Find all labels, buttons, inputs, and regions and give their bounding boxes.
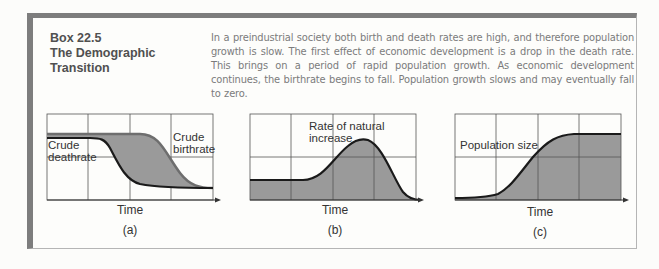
- chart-b-xlabel: Time: [300, 203, 370, 217]
- box-title-line2: Transition: [50, 61, 156, 76]
- chart-a-xlabel: Time: [95, 203, 165, 217]
- label-crude-deathrate-1: Crude: [48, 139, 79, 151]
- label-crude-birthrate-1: Crude: [173, 131, 204, 143]
- chart-c-xlabel: Time: [505, 205, 575, 219]
- label-rate-natural-increase-1: Rate of natural: [309, 120, 384, 132]
- chart-c-population-size: Population size: [448, 108, 633, 208]
- chart-b-natural-increase: Rate of natural increase: [243, 108, 428, 208]
- box-title-line1: The Demographic: [50, 46, 156, 61]
- box-title: Box 22.5 The Demographic Transition: [50, 31, 156, 76]
- chart-b-panel-label: (b): [300, 223, 370, 237]
- chart-a-birth-death-rates: Crude deathrate Crude birthrate: [40, 108, 225, 208]
- label-crude-deathrate-2: deathrate: [48, 151, 97, 163]
- label-crude-birthrate-2: birthrate: [173, 143, 215, 155]
- box-description: In a preindustrial society both birth an…: [211, 31, 634, 101]
- box-number: Box 22.5: [50, 31, 156, 46]
- chart-c-panel-label: (c): [505, 225, 575, 239]
- chart-a-panel-label: (a): [95, 223, 165, 237]
- label-rate-natural-increase-2: increase: [309, 132, 352, 144]
- label-population-size: Population size: [460, 139, 538, 151]
